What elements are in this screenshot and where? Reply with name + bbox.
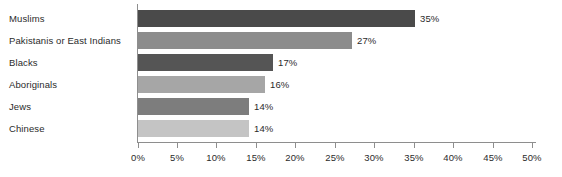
bar: [138, 54, 273, 71]
x-axis-tick-label: 10%: [206, 152, 225, 163]
x-axis-tick: [138, 142, 139, 148]
category-axis-labels: Muslims Pakistanis or East Indians Black…: [0, 0, 130, 142]
bar-value-label: 27%: [357, 35, 376, 46]
bar: [138, 98, 249, 115]
x-axis-line: [137, 142, 536, 143]
x-axis-tick: [216, 142, 217, 148]
x-axis-tick: [453, 142, 454, 148]
x-axis-tick-label: 0%: [131, 152, 145, 163]
bar: [138, 10, 415, 27]
x-axis-tick: [374, 142, 375, 148]
x-axis-tick-label: 40%: [443, 152, 462, 163]
x-axis-tick: [256, 142, 257, 148]
x-axis-tick-label: 35%: [404, 152, 423, 163]
bar-value-label: 14%: [254, 123, 273, 134]
bar: [138, 76, 265, 93]
x-axis-tick-label: 45%: [483, 152, 502, 163]
bar: [138, 32, 352, 49]
x-axis-tick-label: 30%: [364, 152, 383, 163]
category-label: Jews: [9, 101, 126, 112]
bar-chart: Muslims Pakistanis or East Indians Black…: [0, 0, 562, 177]
plot-area: 0% 5% 10% 15% 20% 25% 30% 35% 40% 45% 50…: [137, 0, 562, 177]
bar-value-label: 17%: [278, 57, 297, 68]
bar-value-label: 14%: [254, 101, 273, 112]
x-axis-tick-label: 15%: [246, 152, 265, 163]
x-axis-tick: [414, 142, 415, 148]
x-axis-tick: [177, 142, 178, 148]
category-label: Aboriginals: [9, 79, 126, 90]
x-axis-tick: [335, 142, 336, 148]
x-axis-tick: [295, 142, 296, 148]
x-axis-tick-label: 25%: [325, 152, 344, 163]
category-label: Chinese: [9, 123, 126, 134]
x-axis-tick: [493, 142, 494, 148]
bar-value-label: 16%: [270, 79, 289, 90]
x-axis-tick-label: 5%: [170, 152, 184, 163]
x-axis-tick-label: 50%: [522, 152, 541, 163]
bar: [138, 120, 249, 137]
x-axis-tick-label: 20%: [285, 152, 304, 163]
category-label: Pakistanis or East Indians: [9, 35, 126, 46]
category-label: Blacks: [9, 57, 126, 68]
category-label: Muslims: [9, 13, 126, 24]
x-axis-tick: [532, 142, 533, 148]
bar-value-label: 35%: [420, 13, 439, 24]
